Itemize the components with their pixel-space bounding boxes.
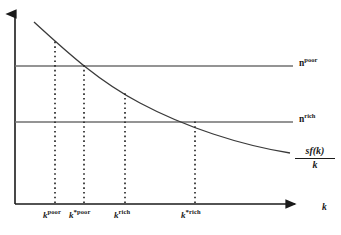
- tick-k-poor-superscript: poor: [48, 208, 61, 215]
- tick-k-rich-superscript: rich: [119, 208, 131, 215]
- x-axis-label: k: [322, 203, 327, 213]
- sf-numerator: sf(k): [295, 146, 335, 158]
- chart-canvas: [0, 0, 341, 235]
- tick-label-k-star-poor: k*poor: [69, 209, 90, 220]
- sf-denominator: k: [295, 159, 335, 171]
- sf-over-k-curve: [34, 22, 290, 153]
- n-poor-superscript: poor: [304, 56, 317, 63]
- tick-label-k-rich: krich: [114, 209, 130, 220]
- tick-label-k-poor: kpoor: [43, 209, 61, 220]
- solow-convergence-figure: npoor nrich sf(k) k kpoor k*poor krich k…: [0, 0, 341, 235]
- n-rich-label: nrich: [299, 113, 316, 125]
- tick-label-k-star-rich: k*rich: [181, 209, 201, 220]
- tick-k-star-poor-superscript: poor: [77, 208, 90, 215]
- n-poor-label: npoor: [299, 57, 317, 69]
- sf-over-k-label: sf(k) k: [295, 146, 335, 170]
- tick-k-star-rich-superscript: rich: [189, 208, 201, 215]
- n-rich-superscript: rich: [304, 112, 315, 119]
